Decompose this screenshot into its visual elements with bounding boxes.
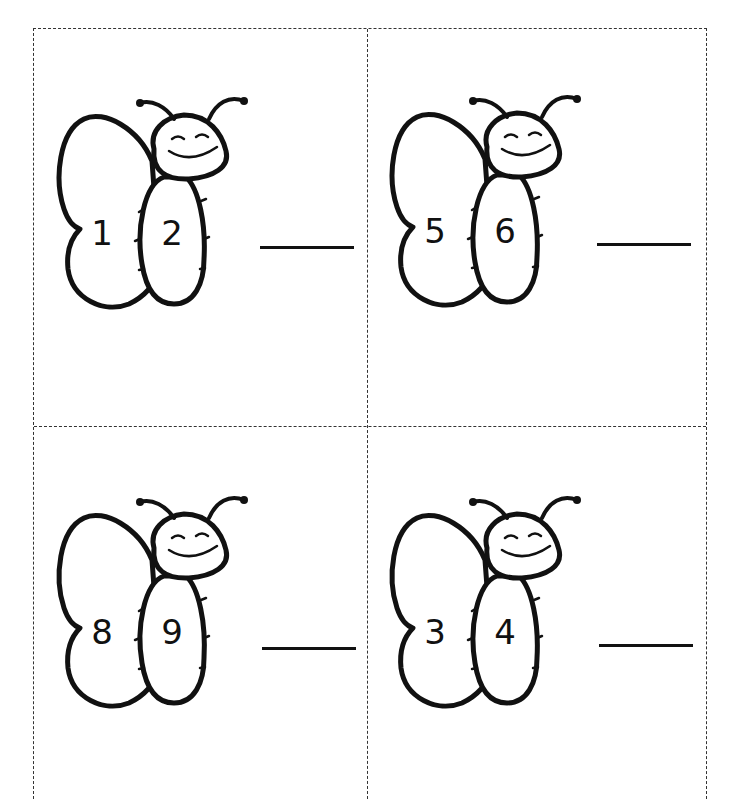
butterfly-icon: 1 2: [44, 89, 264, 319]
left-wing-number: 8: [91, 612, 113, 652]
left-wing-number: 1: [91, 213, 113, 253]
cut-card-grid: 1 2: [33, 28, 707, 799]
butterfly-illustration: 3 4: [377, 488, 597, 718]
butterfly-card-3: 8 9: [34, 426, 367, 803]
butterfly-card-4: 3 4: [367, 426, 700, 803]
answer-blank-line[interactable]: [262, 647, 356, 650]
body-number: 4: [494, 612, 516, 652]
body-number: 6: [494, 211, 516, 251]
left-wing-number: 3: [424, 612, 446, 652]
butterfly-icon: 3 4: [377, 488, 597, 718]
cut-off-title: [250, 0, 390, 4]
butterfly-illustration: 1 2: [44, 89, 264, 319]
body-number: 2: [161, 213, 183, 253]
butterfly-card-1: 1 2: [34, 29, 367, 426]
answer-blank-line[interactable]: [597, 243, 691, 246]
answer-blank-line[interactable]: [599, 644, 693, 647]
butterfly-illustration: 5 6: [377, 87, 597, 317]
body-number: 9: [161, 612, 183, 652]
butterfly-icon: 8 9: [44, 488, 264, 718]
butterfly-card-2: 5 6: [367, 29, 700, 426]
answer-blank-line[interactable]: [260, 246, 354, 249]
butterfly-illustration: 8 9: [44, 488, 264, 718]
butterfly-icon: 5 6: [377, 87, 597, 317]
left-wing-number: 5: [424, 211, 446, 251]
